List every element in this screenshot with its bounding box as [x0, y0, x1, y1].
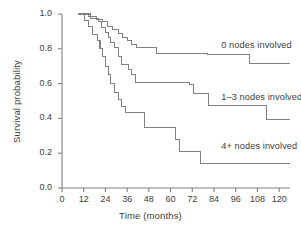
x-axis-title: Time (months)	[0, 210, 301, 221]
y-tick-label: 1.0	[26, 8, 52, 18]
series-line	[78, 14, 290, 64]
y-axis-title: Survival probability	[11, 42, 22, 162]
series-label-0: 0 nodes involved	[221, 40, 292, 50]
y-tick-label: 0.4	[26, 112, 52, 122]
x-tick-label: 120	[264, 194, 294, 204]
series-line	[79, 14, 290, 119]
y-tick-label: 0.6	[26, 78, 52, 88]
series-label-2: 4+ nodes involved	[221, 141, 297, 151]
y-tick-label: 0.2	[26, 147, 52, 157]
y-tick-label: 0.0	[26, 182, 52, 192]
survival-curve-figure: Survival probability Time (months) 0.00.…	[0, 0, 301, 231]
y-tick-label: 0.8	[26, 43, 52, 53]
series-label-1: 1–3 nodes involved	[221, 92, 301, 102]
